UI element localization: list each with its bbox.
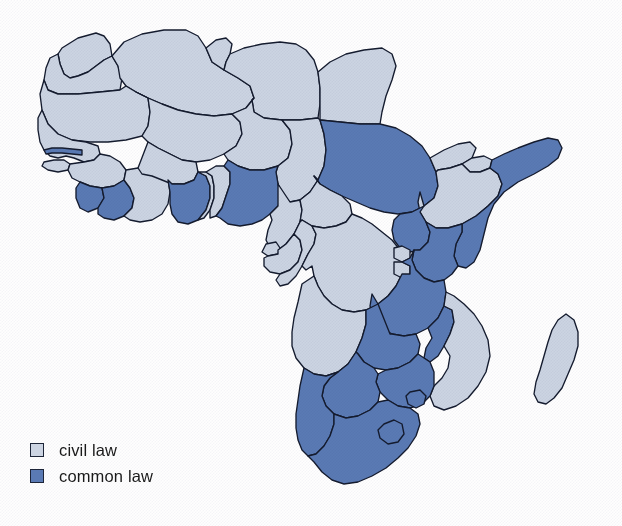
map-legend: civil law common law (30, 437, 260, 489)
legend-label-civil-law: civil law (59, 442, 117, 459)
africa-legal-systems-map: civil law common law (0, 0, 622, 526)
legend-item-common-law: common law (30, 463, 260, 489)
country-egypt (318, 48, 396, 124)
country-madagascar (534, 314, 578, 404)
legend-swatch-civil-law (30, 443, 44, 457)
legend-label-common-law: common law (59, 468, 153, 485)
country-guinea-bissau (42, 160, 70, 172)
legend-item-civil-law: civil law (30, 437, 260, 463)
legend-swatch-common-law (30, 469, 44, 483)
